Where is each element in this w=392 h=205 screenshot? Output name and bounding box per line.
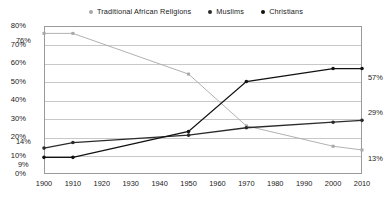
y-axis-tick-label: 10% xyxy=(0,152,26,160)
series-2 xyxy=(42,67,364,159)
y-axis-tick-label: 60% xyxy=(0,59,26,67)
data-point[interactable] xyxy=(187,133,191,137)
chart-legend: Traditional African ReligionsMuslimsChri… xyxy=(0,4,392,20)
data-point[interactable] xyxy=(187,73,190,76)
x-axis-tick-label: 1940 xyxy=(145,180,175,187)
x-axis-tick-label: 1900 xyxy=(29,180,59,187)
x-axis-tick-label: 1980 xyxy=(260,180,290,187)
data-point[interactable] xyxy=(42,156,46,160)
data-point-label: 29% xyxy=(368,109,383,116)
y-axis-tick-label: 50% xyxy=(0,78,26,86)
data-point[interactable] xyxy=(331,67,335,71)
data-point[interactable] xyxy=(43,32,46,35)
data-point-label: 14% xyxy=(16,138,31,145)
y-axis-tick-label: 80% xyxy=(0,22,26,30)
x-axis-tick-label: 2010 xyxy=(347,180,377,187)
data-point[interactable] xyxy=(71,32,74,35)
legend-item-2[interactable]: Christians xyxy=(261,8,303,15)
x-axis-tick-label: 1970 xyxy=(231,180,261,187)
data-point-label: 13% xyxy=(368,155,383,162)
data-point[interactable] xyxy=(360,67,364,71)
legend-marker-icon xyxy=(208,10,212,14)
series-1 xyxy=(42,119,364,150)
data-point[interactable] xyxy=(71,156,75,160)
x-axis-tick-label: 1990 xyxy=(289,180,319,187)
data-point[interactable] xyxy=(42,146,46,150)
legend-label: Christians xyxy=(269,8,303,15)
data-point[interactable] xyxy=(331,120,335,124)
y-axis-tick-label: 0% xyxy=(0,170,26,178)
legend-item-1[interactable]: Muslims xyxy=(208,8,244,15)
series-layer xyxy=(44,26,362,174)
x-axis-tick-label: 2000 xyxy=(318,180,348,187)
data-point[interactable] xyxy=(361,148,364,151)
x-axis-tick-label: 1920 xyxy=(87,180,117,187)
data-point-label: 57% xyxy=(368,74,383,81)
legend-label: Traditional African Religions xyxy=(97,8,191,15)
legend-label: Muslims xyxy=(216,8,244,15)
legend-marker-icon xyxy=(261,10,265,14)
series-line xyxy=(44,33,362,150)
x-axis-tick-label: 1910 xyxy=(58,180,88,187)
x-axis-tick-label: 1960 xyxy=(202,180,232,187)
data-point[interactable] xyxy=(187,130,191,134)
line-chart: Traditional African ReligionsMuslimsChri… xyxy=(0,0,392,205)
series-line xyxy=(44,120,362,148)
x-axis-tick-label: 1950 xyxy=(174,180,204,187)
data-point[interactable] xyxy=(71,141,75,145)
y-axis-tick-label: 40% xyxy=(0,96,26,104)
y-axis-tick-label: 30% xyxy=(0,115,26,123)
data-point[interactable] xyxy=(245,80,249,84)
data-point[interactable] xyxy=(332,145,335,148)
data-point-label: 9% xyxy=(18,161,29,168)
series-line xyxy=(44,69,362,158)
data-point[interactable] xyxy=(245,126,249,130)
legend-marker-icon xyxy=(89,10,93,14)
data-point[interactable] xyxy=(360,119,364,123)
x-axis-tick-label: 1930 xyxy=(116,180,146,187)
data-point-label: 76% xyxy=(16,37,31,44)
x-axis: 1900191019201930194019501960197019801990… xyxy=(44,180,362,192)
legend-item-0[interactable]: Traditional African Religions xyxy=(89,8,191,15)
